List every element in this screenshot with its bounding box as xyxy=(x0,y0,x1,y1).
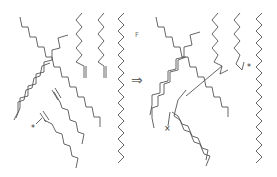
crosslink-bond xyxy=(186,66,222,96)
alkyl-chain xyxy=(234,13,244,70)
alkyl-chain xyxy=(156,17,228,117)
crosslinked-chain xyxy=(172,112,208,160)
cross-mark: × xyxy=(164,124,171,133)
alkene-chain xyxy=(76,13,84,78)
crosslinked-chain xyxy=(174,90,210,166)
radical-mark: * xyxy=(31,124,35,133)
alkyl-chain xyxy=(14,63,50,120)
alkene-chain xyxy=(54,92,84,144)
alkyl-chain xyxy=(256,13,262,163)
reaction-arrow: ⇒ xyxy=(131,72,143,88)
alkyl-chain xyxy=(212,13,228,74)
alkyl-chain xyxy=(150,32,200,115)
alkene-chain xyxy=(44,120,78,168)
products-panel: × * xyxy=(150,13,262,166)
reaction-diagram: * F ⇒ × * xyxy=(0,0,277,177)
radical-mark: * xyxy=(247,63,251,72)
alkyl-chain xyxy=(20,17,100,127)
radical-attack-arrow xyxy=(36,118,42,124)
reactants-panel: * F xyxy=(14,13,139,168)
alkene-chain xyxy=(98,13,104,78)
alkyl-chain xyxy=(118,13,124,163)
label-f: F xyxy=(135,31,139,39)
